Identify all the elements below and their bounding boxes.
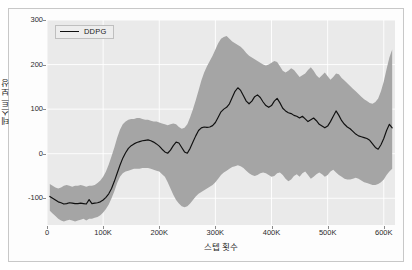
y-tick-label: 200 bbox=[30, 61, 43, 69]
x-tick-label: 300K bbox=[207, 229, 225, 237]
y-tick-mark bbox=[43, 65, 46, 66]
x-tick-label: 0 bbox=[45, 229, 49, 237]
x-tick-label: 500K bbox=[319, 229, 337, 237]
y-tick-label: 100 bbox=[30, 105, 43, 113]
x-tick-label: 400K bbox=[263, 229, 281, 237]
y-tick-mark bbox=[43, 198, 46, 199]
chart-figure: 테스트 보상 -1000100200300 DDPG 0100K200K300K… bbox=[0, 0, 412, 270]
x-tick-label: 600K bbox=[375, 229, 393, 237]
y-tick-mark bbox=[43, 109, 46, 110]
plot-area: DDPG bbox=[47, 20, 395, 225]
legend-line-swatch bbox=[60, 31, 79, 32]
x-axis-label: 스텝 횟수 bbox=[47, 243, 395, 252]
y-tick-mark bbox=[43, 154, 46, 155]
y-axis-label: 테스트 보상 bbox=[2, 78, 14, 125]
plot-svg bbox=[47, 20, 395, 225]
x-tick-label: 200K bbox=[150, 229, 168, 237]
x-tick-labels: 0100K200K300K400K500K600K bbox=[47, 229, 395, 241]
x-tick-label: 100K bbox=[94, 229, 112, 237]
y-tick-labels: -1000100200300 bbox=[14, 20, 43, 225]
y-tick-label: 300 bbox=[30, 16, 43, 24]
legend-box: DDPG bbox=[55, 25, 114, 39]
y-tick-mark bbox=[43, 20, 46, 21]
confidence-band bbox=[50, 36, 392, 221]
legend-label-ddpg: DDPG bbox=[84, 28, 106, 36]
y-tick-label: -100 bbox=[28, 194, 43, 202]
